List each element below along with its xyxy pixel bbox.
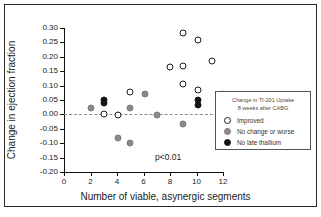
y-axis-tick [60,158,64,159]
filled-circle-icon [224,139,231,146]
legend-item-improved: Improved [221,115,305,126]
data-point [127,140,134,147]
x-axis-tick-label: 10 [192,178,201,186]
x-axis-tick [117,172,118,176]
data-point [194,37,201,44]
y-axis-tick-label: -0.20 [40,168,58,176]
x-axis-tick [144,172,145,176]
legend-box: Change in Tl-201 Uptake 8 weeks after CA… [215,91,311,150]
legend-item-label: Improved [237,117,264,124]
figure-border: Change in ejection fraction 0.300.250.20… [4,4,317,207]
data-point [180,63,187,70]
x-axis-tick-label: 12 [219,178,228,186]
y-axis-tick [60,57,64,58]
y-axis-title: Change in ejection fraction [6,41,17,159]
x-axis-tick [197,172,198,176]
data-point [100,100,107,107]
y-axis-tick [60,86,64,87]
data-point [115,111,122,118]
data-point [180,80,187,87]
legend-item-no-late-thallium: No late thallium [221,137,305,148]
pvalue-annotation: p<0.01 [155,152,181,162]
data-point [127,88,134,95]
legend-title: Change in Tl-201 Uptake 8 weeks after CA… [221,96,305,112]
zero-reference-line [64,114,223,115]
legend-title-line-1: Change in Tl-201 Uptake [221,96,305,104]
y-axis-tick-label: -0.05 [40,125,58,133]
x-axis-title: Number of viable, asynergic segments [9,191,321,202]
y-axis-tick-label: -0.15 [40,154,58,162]
data-point [127,104,134,111]
open-circle-icon [224,117,231,124]
data-point [167,63,174,70]
x-axis-tick [91,172,92,176]
x-axis-tick-label: 4 [115,178,119,186]
data-point [87,105,94,112]
y-axis-tick-label: 0.25 [42,38,58,46]
legend-item-label: No late thallium [237,139,281,146]
data-point [100,111,107,118]
y-axis-tick [60,28,64,29]
data-point [153,111,160,118]
data-point [115,135,122,142]
data-point [209,57,216,64]
x-axis-tick-label: 8 [168,178,172,186]
legend-item-no-change: No change or worse [221,126,305,137]
x-axis-tick [223,172,224,176]
y-axis-tick [60,129,64,130]
y-axis-tick-label: 0.00 [42,110,58,118]
data-point [194,102,201,109]
x-axis-tick [170,172,171,176]
legend-title-line-2: 8 weeks after CABG [221,104,305,112]
y-axis-tick-label: 0.10 [42,82,58,90]
y-axis-tick-label: 0.20 [42,53,58,61]
data-point [194,86,201,93]
y-axis-tick-label: 0.05 [42,96,58,104]
plot-area: 0.300.250.200.150.100.050.00-0.05-0.10-0… [64,28,223,172]
y-axis-tick [60,42,64,43]
legend-item-label: No change or worse [237,128,294,135]
figure-container: Change in ejection fraction 0.300.250.20… [0,0,321,217]
y-axis-tick [60,71,64,72]
y-axis-tick [60,143,64,144]
y-axis-tick [60,100,64,101]
x-axis-tick [64,172,65,176]
gray-circle-icon [224,128,231,135]
y-axis-tick-label: 0.15 [42,67,58,75]
data-point [180,120,187,127]
x-axis-tick-label: 6 [141,178,145,186]
x-axis-tick-label: 2 [88,178,92,186]
y-axis-line [64,28,65,172]
data-point [141,91,148,98]
y-axis-tick [60,114,64,115]
x-axis-tick-label: 0 [62,178,66,186]
y-axis-tick-label: 0.30 [42,24,58,32]
y-axis-tick-label: -0.10 [40,139,58,147]
data-point [180,29,187,36]
